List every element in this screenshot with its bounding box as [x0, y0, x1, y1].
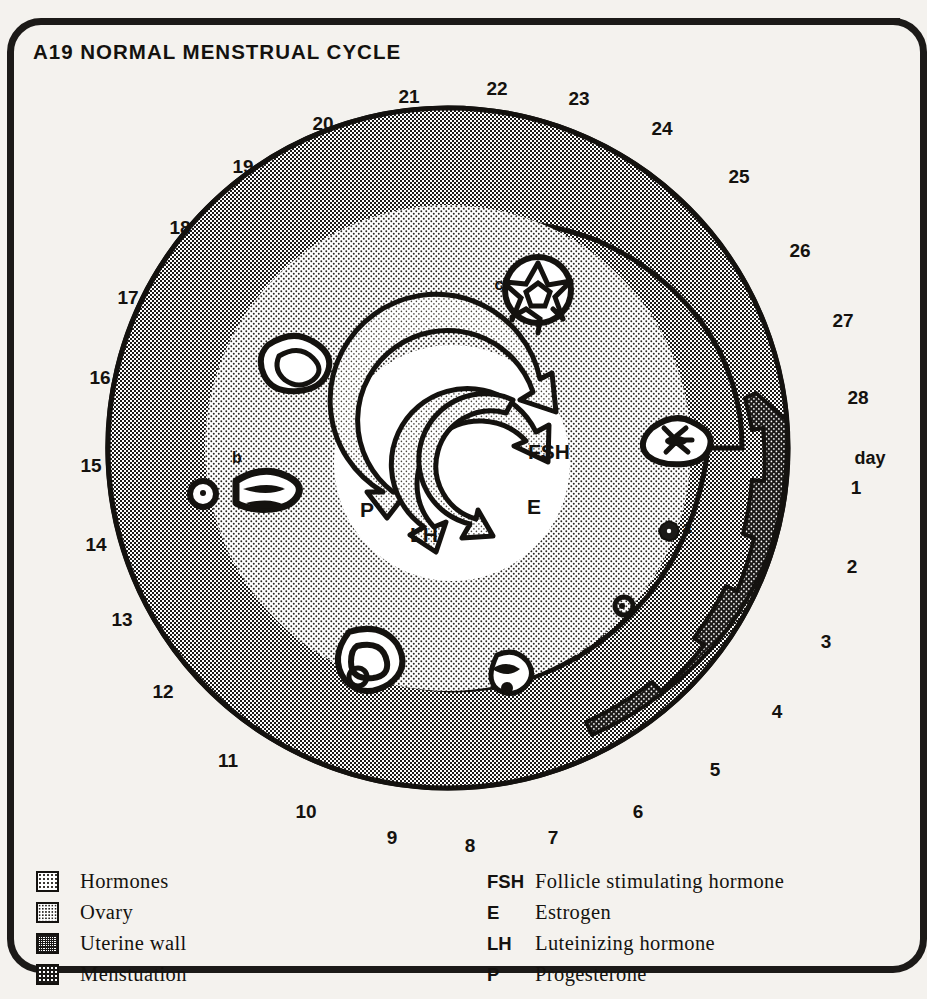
day-label-18: 18: [169, 217, 190, 239]
day-label-7: 7: [548, 827, 559, 849]
legend-abbreviations: FSH Follicle stimulating hormone E Estro…: [487, 866, 887, 990]
legend-row-ovary: Ovary: [36, 897, 436, 928]
day-label-19: 19: [232, 156, 253, 178]
day-label-10: 10: [295, 801, 316, 823]
hormone-label-fsh: FSH: [528, 440, 570, 464]
legend-key-fsh: FSH: [487, 871, 535, 893]
day-label-13: 13: [111, 609, 132, 631]
legend-row-uterine-wall: Uterine wall: [36, 928, 436, 959]
day-label-15: 15: [80, 455, 101, 477]
day-label-22: 22: [486, 78, 507, 100]
day-label-16: 16: [89, 367, 110, 389]
follicle-graafian: [338, 629, 403, 691]
day-label-24: 24: [651, 118, 672, 140]
ovary-label-a: a: [683, 519, 692, 537]
legend-row-fsh: FSH Follicle stimulating hormone: [487, 866, 887, 897]
day-label-17: 17: [117, 287, 138, 309]
day-label-23: 23: [568, 88, 589, 110]
day-label-28: 28: [847, 387, 868, 409]
swatch-menstuation-icon: [36, 964, 59, 985]
legend-patterns: Hormones Ovary Uterine wall Menstuation: [36, 866, 436, 990]
legend-label-lh: Luteinizing hormone: [535, 932, 715, 955]
hormone-label-p: P: [360, 498, 374, 522]
day-label-4: 4: [772, 701, 783, 723]
swatch-hormones-icon: [36, 871, 59, 892]
follicle-secondary: [491, 652, 532, 694]
day-label-20: 20: [312, 113, 333, 135]
day-label-21: 21: [398, 86, 419, 108]
follicle-primordial-a: [659, 521, 679, 541]
legend-label-ovary: Ovary: [80, 901, 133, 924]
day-label-11: 11: [218, 750, 238, 772]
legend-label-e: Estrogen: [535, 901, 611, 924]
day-label-25: 25: [728, 166, 749, 188]
corpus-albicans-upper-left: [261, 336, 329, 391]
legend-key-p: P: [487, 964, 535, 986]
hormone-label-e: E: [527, 495, 541, 519]
swatch-ovary-icon: [36, 902, 59, 923]
day-label-6: 6: [633, 801, 644, 823]
legend-label-uterine-wall: Uterine wall: [80, 932, 187, 955]
legend-label-fsh: Follicle stimulating hormone: [535, 870, 784, 893]
day-label-1: 1: [851, 477, 862, 499]
day-label-3: 3: [821, 631, 832, 653]
legend-label-menstuation: Menstuation: [80, 963, 187, 986]
day-word-label: day: [854, 448, 885, 469]
day-label-26: 26: [789, 240, 810, 262]
corpus-luteum-degenerating: [643, 418, 711, 464]
legend-row-menstuation: Menstuation: [36, 959, 436, 990]
legend-row-p: P Progesterone: [487, 959, 887, 990]
day-label-14: 14: [85, 534, 106, 556]
ovary-label-b: b: [232, 449, 242, 467]
hormone-label-lh: LH: [410, 523, 438, 547]
legend-row-lh: LH Luteinizing hormone: [487, 928, 887, 959]
legend-key-e: E: [487, 902, 535, 924]
legend-label-hormones: Hormones: [80, 870, 169, 893]
day-label-9: 9: [387, 827, 398, 849]
ovary-label-c: c: [495, 276, 504, 294]
legend-row-e: E Estrogen: [487, 897, 887, 928]
day-label-12: 12: [152, 681, 173, 703]
day-label-27: 27: [832, 310, 853, 332]
day-label-2: 2: [847, 556, 858, 578]
swatch-uterine-wall-icon: [36, 933, 59, 954]
day-label-5: 5: [710, 759, 721, 781]
legend-label-p: Progesterone: [535, 963, 647, 986]
day-label-8: 8: [465, 835, 476, 857]
legend-row-hormones: Hormones: [36, 866, 436, 897]
legend-key-lh: LH: [487, 933, 535, 955]
